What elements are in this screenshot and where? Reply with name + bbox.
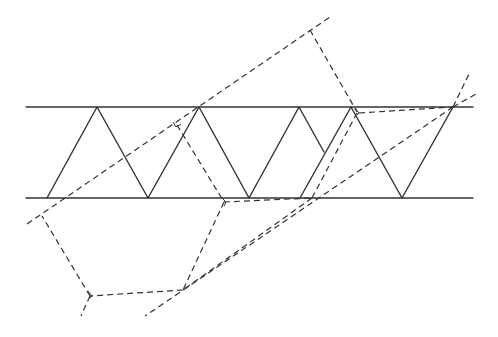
dashed-long-diagonal — [27, 17, 330, 224]
dashed-lower-left-edge — [42, 216, 90, 296]
dashed-steep-continuation — [183, 198, 312, 290]
dashed-long-lower-diagonal — [145, 107, 453, 316]
zigzag-path-2 — [300, 107, 453, 198]
dashed-perpendicular-lower — [177, 125, 224, 202]
dashed-lower-bottom-edge — [90, 290, 183, 296]
zigzag-diagram — [0, 0, 498, 337]
dashed-near-horizontal-top — [359, 107, 453, 113]
dashed-perpendicular-upper — [310, 30, 357, 112]
zigzag-path-1 — [47, 107, 324, 198]
dashed-fan-steep — [453, 72, 470, 107]
dashed-fan-shallow — [453, 94, 476, 107]
right-angle-mark-lower — [173, 122, 181, 127]
dashed-lower-left-tail — [81, 296, 90, 316]
dashed-steep-to-bottom — [312, 113, 357, 198]
